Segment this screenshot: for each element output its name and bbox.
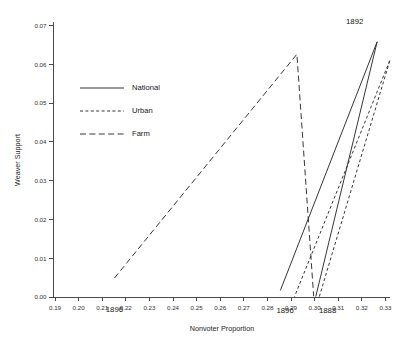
data-point-label: 1896 [276,306,293,315]
y-axis-title: Weaver Support [13,134,22,186]
x-tick-label: 0.19 [49,304,62,311]
data-point-labels: 1892189618961888 [106,17,364,316]
x-tick-label: 0.24 [167,304,180,311]
data-point-label: 1892 [346,17,363,26]
data-series-group [114,42,390,297]
y-tick-label: 0.04 [34,138,47,145]
y-tick-label: 0.01 [34,255,47,262]
y-tick-label: 0.00 [34,293,47,300]
weaver-support-line-chart: 0.190.200.210.220.230.240.250.260.270.28… [0,0,399,338]
x-axis: 0.190.200.210.220.230.240.250.260.270.28… [49,297,392,333]
x-axis-ticks: 0.190.200.210.220.230.240.250.260.270.28… [49,297,392,311]
y-tick-label: 0.06 [34,61,47,68]
y-axis-ticks: 0.000.010.020.030.040.050.060.07 [34,22,53,301]
x-tick-label: 0.26 [214,304,227,311]
y-tick-label: 0.07 [34,22,47,29]
series-line-national [280,42,377,297]
data-point-label: 1896 [106,305,123,314]
legend-label-national: National [132,83,160,92]
x-tick-label: 0.33 [379,304,392,311]
data-point-label: 1888 [319,306,336,315]
x-tick-label: 0.32 [356,304,369,311]
x-tick-label: 0.20 [73,304,86,311]
x-tick-label: 0.23 [143,304,156,311]
x-tick-label: 0.27 [238,304,251,311]
y-tick-label: 0.02 [34,216,47,223]
y-tick-label: 0.03 [34,177,47,184]
x-tick-label: 0.28 [261,304,274,311]
legend-label-farm: Farm [132,129,150,138]
y-tick-label: 0.05 [34,99,47,106]
chart-figure: 0.190.200.210.220.230.240.250.260.270.28… [0,0,399,338]
x-axis-title: Nonvoter Proportion [190,324,254,333]
chart-legend: NationalUrbanFarm [80,83,160,138]
series-line-urban [295,60,391,297]
x-tick-label: 0.25 [191,304,204,311]
legend-label-urban: Urban [132,106,153,115]
y-axis: 0.000.010.020.030.040.050.060.07 Weaver … [13,22,53,301]
